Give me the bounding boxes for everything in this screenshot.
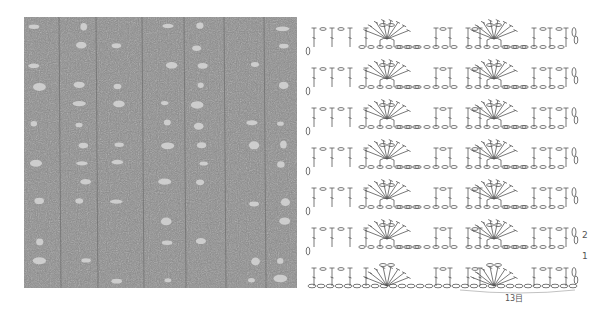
swatch-photo	[24, 17, 297, 288]
stitch-diagram	[300, 0, 611, 320]
row-label-1: 1	[582, 251, 588, 261]
repeat-label: 13目	[505, 292, 523, 303]
row-label-2: 2	[582, 230, 588, 240]
crochet-chart: 2 1 13目	[300, 0, 611, 320]
